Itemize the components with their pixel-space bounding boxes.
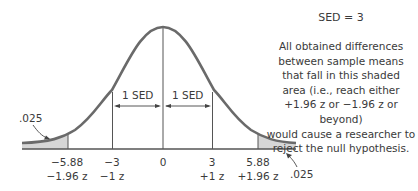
interval-arrow-left	[114, 104, 161, 108]
interval-label-right: 1 SED	[172, 89, 203, 102]
right-tail-probability: .025	[290, 168, 313, 181]
tick-z: +1.96 z	[228, 169, 288, 183]
annotation-line: reject the null hypothesis.	[266, 141, 416, 156]
interval-label-left: 1 SED	[122, 89, 153, 102]
annotation-line: that fall in this shaded	[266, 68, 416, 83]
tick-z: −1 z	[82, 169, 142, 183]
left-tail-pointer	[33, 125, 50, 140]
annotation-line: between sample means	[266, 54, 416, 69]
tick-value: 5.88	[228, 155, 288, 169]
annotation-line: area (i.e., reach either	[266, 83, 416, 98]
annotation-line: +1.96 z or −1.96 z or beyond)	[266, 97, 416, 126]
left-tail-probability: .025	[19, 112, 42, 125]
tick-pos-5-88: 5.88 +1.96 z	[228, 155, 288, 183]
annotation-line: would cause a researcher to	[266, 127, 416, 142]
annotation-line: All obtained differences	[266, 39, 416, 54]
bell-curve	[22, 27, 296, 143]
sed-value-label: SED = 3	[266, 11, 416, 24]
annotation-text: All obtained differences between sample …	[266, 39, 416, 156]
interval-arrow-right	[165, 104, 211, 108]
